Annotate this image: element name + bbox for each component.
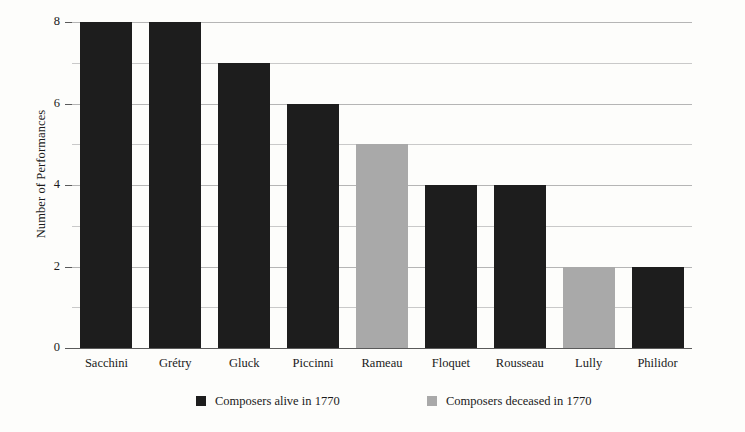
y-tick-mark bbox=[65, 185, 72, 186]
legend-swatch-alive bbox=[196, 396, 206, 406]
bar-rousseau[interactable] bbox=[494, 185, 546, 348]
x-label-rameau: Rameau bbox=[348, 353, 417, 373]
x-label-lully: Lully bbox=[554, 353, 623, 373]
bar-gluck[interactable] bbox=[218, 63, 270, 348]
x-label-philidor: Philidor bbox=[623, 353, 692, 373]
x-label-sacchini: Sacchini bbox=[72, 353, 141, 373]
bar-chart-figure: Number of Performances 02468 SacchiniGré… bbox=[0, 0, 745, 432]
y-tick-mark bbox=[65, 348, 72, 349]
y-tick-label: 8 bbox=[34, 15, 60, 28]
x-axis-line bbox=[72, 348, 692, 349]
bar-lully[interactable] bbox=[563, 267, 615, 349]
y-tick-label: 2 bbox=[34, 260, 60, 273]
legend-label: Composers deceased in 1770 bbox=[446, 395, 591, 408]
legend-swatch-deceased bbox=[427, 396, 437, 406]
bar-floquet[interactable] bbox=[425, 185, 477, 348]
x-label-floquet: Floquet bbox=[416, 353, 485, 373]
legend-label: Composers alive in 1770 bbox=[215, 395, 340, 408]
y-tick-label: 6 bbox=[34, 97, 60, 110]
bar-grtry[interactable] bbox=[149, 22, 201, 348]
bar-piccinni[interactable] bbox=[287, 104, 339, 349]
y-tick-mark bbox=[65, 104, 72, 105]
bar-philidor[interactable] bbox=[632, 267, 684, 349]
legend-item-deceased[interactable]: Composers deceased in 1770 bbox=[427, 392, 591, 410]
chart-legend: Composers alive in 1770Composers decease… bbox=[72, 392, 692, 416]
x-label-gluck: Gluck bbox=[210, 353, 279, 373]
x-label-grtry: Grétry bbox=[141, 353, 210, 373]
x-label-rousseau: Rousseau bbox=[485, 353, 554, 373]
y-axis-tick-labels: 02468 bbox=[30, 0, 60, 432]
y-tick-mark bbox=[65, 267, 72, 268]
bar-rameau[interactable] bbox=[356, 144, 408, 348]
bar-sacchini[interactable] bbox=[80, 22, 132, 348]
x-axis-category-labels: SacchiniGrétryGluckPiccinniRameauFloquet… bbox=[72, 353, 692, 375]
y-tick-label: 0 bbox=[34, 341, 60, 354]
y-tick-mark bbox=[65, 22, 72, 23]
plot-area bbox=[72, 22, 692, 348]
legend-item-alive[interactable]: Composers alive in 1770 bbox=[196, 392, 340, 410]
x-label-piccinni: Piccinni bbox=[279, 353, 348, 373]
y-tick-label: 4 bbox=[34, 178, 60, 191]
